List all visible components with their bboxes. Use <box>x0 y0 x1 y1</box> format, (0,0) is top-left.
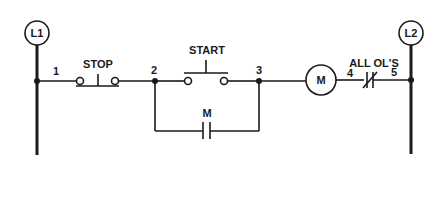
wire-number-1: 1 <box>53 65 59 77</box>
l2-label: L2 <box>405 27 418 39</box>
stop-label: STOP <box>83 58 113 70</box>
start-label: START <box>189 44 225 56</box>
wire-number-5: 5 <box>391 66 397 78</box>
ladder-diagram: L1 L2 1 STOP 2 START 3 <box>0 0 441 201</box>
rail-l2: L2 <box>399 21 423 154</box>
stop-terminal-left <box>77 78 84 85</box>
start-terminal-left <box>185 78 192 85</box>
motor-coil: M <box>306 65 336 95</box>
start-pushbutton: START <box>155 44 259 85</box>
seal-in-label: M <box>202 107 211 119</box>
l1-label: L1 <box>31 27 44 39</box>
stop-pushbutton: STOP <box>76 58 119 86</box>
start-terminal-right <box>221 78 228 85</box>
motor-label: M <box>316 74 325 86</box>
wire-number-2: 2 <box>151 64 157 76</box>
wire-number-3: 3 <box>256 64 262 76</box>
stop-terminal-right <box>112 78 119 85</box>
seal-in-contact-branch: M <box>155 81 259 139</box>
overload-contacts: ALL OL'S <box>349 57 411 88</box>
rail-l1: L1 <box>25 21 49 155</box>
